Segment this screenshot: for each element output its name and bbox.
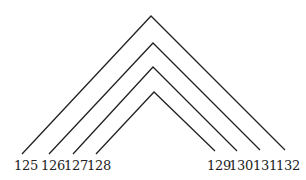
label-132: 132: [276, 158, 300, 173]
label-127: 127: [64, 158, 88, 173]
arc-128-129: [96, 92, 215, 154]
arc-126-131: [49, 43, 260, 154]
label-130: 130: [229, 158, 253, 173]
label-131: 131: [253, 158, 277, 173]
label-126: 126: [41, 158, 65, 173]
label-128: 128: [87, 158, 111, 173]
arc-125-132: [22, 16, 285, 154]
label-129: 129: [207, 158, 231, 173]
nested-arcs-diagram: [0, 0, 306, 180]
arc-127-130: [73, 67, 237, 154]
label-125: 125: [14, 158, 38, 173]
